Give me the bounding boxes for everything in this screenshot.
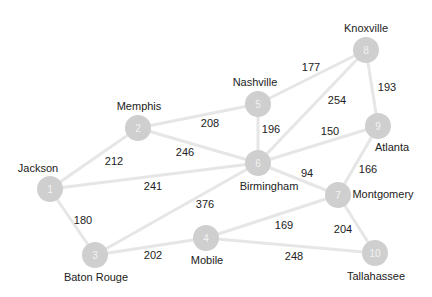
edge-weight-label: 166 <box>359 163 377 175</box>
edge-weight-label: 177 <box>302 61 320 73</box>
edge-weight-label: 208 <box>201 117 219 129</box>
city-label: Knoxville <box>344 22 388 34</box>
edge-memphis-birmingham <box>138 128 258 163</box>
edge-weight-label: 180 <box>74 214 92 226</box>
edge-weight-label: 196 <box>262 123 280 135</box>
edge-weight-label: 241 <box>144 180 162 192</box>
city-label: Birmingham <box>240 180 299 192</box>
node-id-label: 7 <box>335 190 341 201</box>
node-id-label: 2 <box>135 123 141 134</box>
node-id-label: 10 <box>369 248 381 259</box>
edge-weight-label: 202 <box>144 249 162 261</box>
node-id-label: 3 <box>92 250 98 261</box>
node-id-label: 5 <box>255 99 261 110</box>
node-memphis: 2Memphis <box>117 100 162 141</box>
edge-mobile-montgomery <box>206 195 338 238</box>
city-label: Jackson <box>18 162 58 174</box>
city-label: Montgomery <box>352 188 414 200</box>
city-label: Nashville <box>233 76 278 88</box>
node-baton-rouge: 3Baton Rouge <box>64 242 128 283</box>
node-atlanta: 9Atlanta <box>365 113 410 153</box>
node-mobile: 4Mobile <box>191 225 223 266</box>
node-id-label: 8 <box>363 45 369 56</box>
edge-weight-label: 246 <box>176 146 194 158</box>
edge-weight-label: 254 <box>328 94 346 106</box>
edge-weight-label: 193 <box>378 81 396 93</box>
city-label: Tallahassee <box>347 270 405 282</box>
edge-weights-layer: 2121802412082463762021692481771962541509… <box>74 61 396 262</box>
node-birmingham: 6Birmingham <box>240 150 299 192</box>
node-id-label: 1 <box>47 184 53 195</box>
node-id-label: 9 <box>375 121 381 132</box>
city-label: Memphis <box>117 100 162 112</box>
city-label: Mobile <box>191 254 223 266</box>
edge-weight-label: 376 <box>196 198 214 210</box>
edge-weight-label: 150 <box>321 125 339 137</box>
edge-weight-label: 204 <box>334 223 352 235</box>
edge-weight-label: 94 <box>301 167 313 179</box>
node-jackson: 1Jackson <box>18 162 63 202</box>
edges-layer <box>50 50 378 255</box>
node-montgomery: 7Montgomery <box>325 182 414 208</box>
node-id-label: 4 <box>203 233 209 244</box>
edge-weight-label: 212 <box>105 155 123 167</box>
graph-canvas: 2121802412082463762021692481771962541509… <box>0 0 432 297</box>
edge-weight-label: 248 <box>285 250 303 262</box>
node-tallahassee: 10Tallahassee <box>347 240 405 282</box>
edge-weight-label: 169 <box>275 219 293 231</box>
city-label: Atlanta <box>375 141 410 153</box>
node-id-label: 6 <box>255 158 261 169</box>
city-label: Baton Rouge <box>64 271 128 283</box>
